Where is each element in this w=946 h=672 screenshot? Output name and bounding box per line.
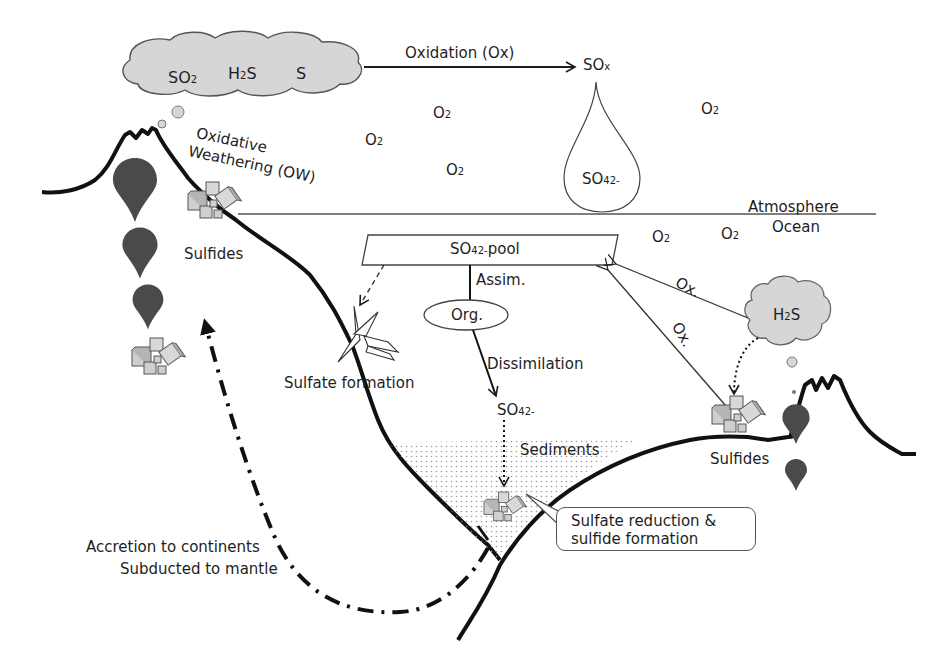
sulfur-cycle-diagram: SO2 H2S S Oxidation (Ox) SOx SO42- O2 O2… [0,0,946,672]
o2-label-ocean: O2 [721,227,739,242]
sulfate-reduction-callout: Sulfate reduction & sulfide formation [556,507,756,551]
dissimilation-label: Dissimilation [487,357,583,372]
dissolved-sulfate-label: SO42- [497,403,535,418]
sulfate-pool-label: SO42- pool [450,242,520,257]
h2s-label-cloud: H2S [228,66,257,82]
oxidation-label: Oxidation (Ox) [405,46,514,61]
oxidation-arrow-sulfides [608,270,726,406]
o2-label: O2 [365,133,383,148]
sulfur-label: S [296,66,306,82]
accretion-label: Accretion to continents [86,540,260,555]
so2-label: SO2 [168,70,197,86]
magma-drops-right [782,390,809,491]
ocean-label: Ocean [772,220,820,235]
o2-label-ocean: O2 [652,230,670,245]
sulfate-raindrop [564,82,640,212]
sulfide-crystals-hydrothermal [712,396,765,432]
sulfate-drop-label: SO42- [582,172,620,187]
sulfate-formation-label: Sulfate formation [284,376,414,391]
h2s-label-hydrothermal: H2S [773,308,800,323]
continental-margin-left [42,128,500,560]
callout-line-1: Sulfate reduction & [571,512,755,530]
organic-label: Org. [451,308,483,323]
sulfide-crystals-magmatic [132,338,185,374]
sulfides-label-right: Sulfides [710,452,769,467]
h2s-precipitation-arrow [734,338,758,394]
sulfides-label-left: Sulfides [184,247,243,262]
o2-label: O2 [446,163,464,178]
sulfate-formation-arrow [360,265,384,305]
sox-label: SOx [583,58,610,73]
assimilation-label: Assim. [476,273,525,288]
atmosphere-label: Atmosphere [748,200,839,215]
magma-drops-left [113,158,163,329]
subduction-label: Subducted to mantle [120,562,278,577]
sediments-label: Sediments [520,443,599,458]
callout-line-2: sulfide formation [571,530,755,548]
o2-label: O2 [433,106,451,121]
o2-label: O2 [701,102,719,117]
